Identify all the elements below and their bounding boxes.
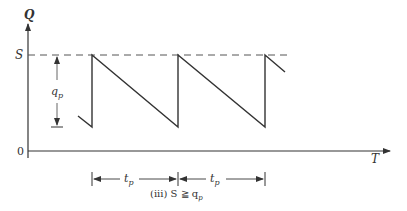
- period1-label: tp: [124, 172, 134, 187]
- y-axis-label: Q: [24, 8, 35, 22]
- inventory-sawtooth-line: [78, 55, 285, 127]
- period2-label: tp: [210, 172, 220, 187]
- origin-label: 0: [17, 145, 24, 158]
- x-axis-label: T: [371, 152, 380, 166]
- figure-caption: (iii) S ≧ qp: [150, 188, 203, 202]
- inventory-sawtooth-diagram: Q T 0 S qp tp tp (iii) S ≧ qp: [0, 0, 407, 211]
- s-level-label: S: [15, 48, 23, 62]
- qp-label: qp: [51, 85, 63, 100]
